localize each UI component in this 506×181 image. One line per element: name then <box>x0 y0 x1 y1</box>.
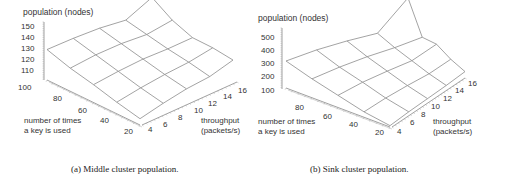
y-tick: 80 <box>53 94 62 103</box>
y-axis-label-line2: a key is used <box>24 126 71 135</box>
z-tick: 100 <box>18 83 31 92</box>
y-tick: 80 <box>295 103 304 112</box>
y-axis-label-line2: a key is used <box>258 127 305 136</box>
x-tick: 10 <box>194 106 203 115</box>
y-tick: 60 <box>78 106 87 115</box>
x-tick: 6 <box>410 118 414 127</box>
z-axis-label: population (nodes) <box>258 14 328 23</box>
y-tick: 20 <box>375 128 384 137</box>
y-tick: 20 <box>124 127 133 136</box>
x-tick: 8 <box>421 110 425 119</box>
x-axis-label-line1: throughput <box>201 116 239 125</box>
z-tick: 300 <box>261 59 274 68</box>
z-tick: 110 <box>21 66 34 75</box>
x-tick: 14 <box>223 92 232 101</box>
z-tick: 130 <box>21 44 34 53</box>
x-axis-label-line2: (packets/s) <box>433 127 472 136</box>
x-tick: 12 <box>208 99 217 108</box>
x-tick: 4 <box>397 127 401 136</box>
z-tick: 500 <box>261 33 274 42</box>
x-tick: 16 <box>468 79 477 88</box>
y-tick: 60 <box>323 112 332 121</box>
z-tick: 120 <box>21 55 34 64</box>
x-tick: 14 <box>455 86 464 95</box>
chart-sink-cluster: population (nodes) 500 400 300 200 100 8… <box>253 0 506 150</box>
caption-a: (a) Middle cluster population. <box>71 164 178 174</box>
z-tick: 100 <box>261 86 274 95</box>
x-axis-label-line2: (packets/s) <box>201 126 240 135</box>
x-axis-label-line1: throughput <box>433 117 471 126</box>
x-tick: 10 <box>431 102 440 111</box>
x-tick: 4 <box>148 125 152 134</box>
z-tick: 200 <box>261 72 274 81</box>
z-axis-label: population (nodes) <box>23 8 93 17</box>
y-axis-label-line1: number of times <box>24 116 81 125</box>
x-tick: 12 <box>443 94 452 103</box>
z-tick: 140 <box>21 33 34 42</box>
z-tick: 150 <box>21 22 34 31</box>
x-tick: 6 <box>163 120 167 129</box>
y-axis-label-line1: number of times <box>258 117 315 126</box>
caption-b: (b) Sink cluster population. <box>310 164 409 174</box>
chart-middle-cluster: population (nodes) 150 140 130 120 110 1… <box>0 0 253 150</box>
x-tick: 16 <box>238 86 247 95</box>
x-tick: 8 <box>178 113 182 122</box>
y-tick: 40 <box>349 120 358 129</box>
z-tick: 400 <box>261 46 274 55</box>
y-tick: 40 <box>100 116 109 125</box>
